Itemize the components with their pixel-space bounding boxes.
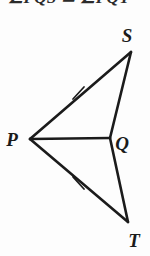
segment-ps — [30, 52, 131, 139]
geometry-figure-container: ∠PQS ≅ ∠PQT P S Q T — [0, 0, 150, 256]
segment-sq — [110, 52, 131, 138]
vertex-label-q: Q — [115, 133, 129, 154]
segment-pq — [30, 138, 110, 139]
vertex-label-s: S — [122, 25, 133, 46]
vertex-label-t: T — [128, 230, 141, 251]
vertex-label-p: P — [5, 129, 18, 150]
geometry-diagram: P S Q T — [0, 0, 150, 256]
